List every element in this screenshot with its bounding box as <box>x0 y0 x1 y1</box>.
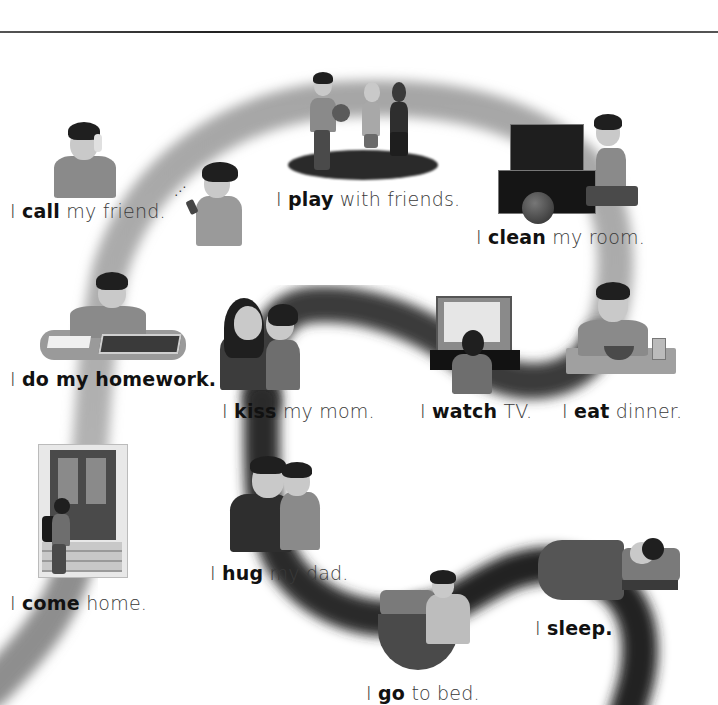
scene-call-girl: ⋰ <box>174 160 246 246</box>
caption-play: I play with friends. <box>276 188 460 210</box>
caption-eat: I eat dinner. <box>562 400 682 422</box>
scene-play-friends <box>288 70 438 180</box>
notebook-icon <box>47 336 91 348</box>
scene-sleep <box>538 534 684 602</box>
scene-go-to-bed <box>376 568 476 672</box>
scene-clean-room <box>496 112 652 222</box>
caption-go: I go to bed. <box>366 682 480 704</box>
caption-kiss: I kiss my mom. <box>222 400 375 422</box>
scene-watch-tv <box>424 292 524 396</box>
caption-clean: I clean my room. <box>476 226 645 248</box>
blanket <box>538 540 624 600</box>
phone-icon <box>94 134 102 152</box>
mattress <box>622 580 678 590</box>
scene-homework <box>40 270 186 362</box>
open-book-icon <box>98 334 182 354</box>
scene-eat-dinner <box>566 280 676 376</box>
caption-call: I call my friend. <box>10 200 166 222</box>
caption-hug: I hug my dad. <box>210 562 349 584</box>
daily-routine-page: ⋰ I call my friend. I play with friends. <box>0 0 718 705</box>
ball-icon <box>522 192 554 224</box>
scene-come-home <box>38 444 126 576</box>
glass-icon <box>652 338 666 360</box>
ball-icon <box>332 104 350 122</box>
scene-hug-dad <box>230 454 326 554</box>
caption-sleep: I sleep. <box>535 617 613 639</box>
scene-kiss-mom <box>220 294 302 390</box>
door-window-right <box>86 458 106 504</box>
toy-chest-lid <box>510 124 584 174</box>
caption-come: I come home. <box>10 592 147 614</box>
caption-watch: I watch TV. <box>420 400 532 422</box>
caption-homework: I do my homework. <box>10 368 216 390</box>
scene-call-boy <box>54 120 118 200</box>
ringing-lines-icon: ⋰ <box>174 184 186 198</box>
